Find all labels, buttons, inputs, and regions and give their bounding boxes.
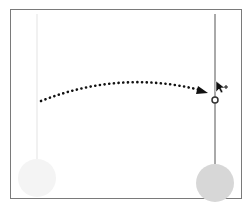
drag-path — [41, 82, 200, 101]
active-circle[interactable] — [196, 164, 234, 202]
ghost-element — [18, 14, 56, 197]
active-element[interactable] — [196, 14, 234, 202]
drag-arrowhead-icon — [196, 86, 208, 94]
move-cursor-icon — [216, 81, 228, 93]
diagram-canvas — [0, 0, 251, 216]
ghost-circle — [18, 159, 56, 197]
drag-handle[interactable] — [212, 97, 218, 103]
